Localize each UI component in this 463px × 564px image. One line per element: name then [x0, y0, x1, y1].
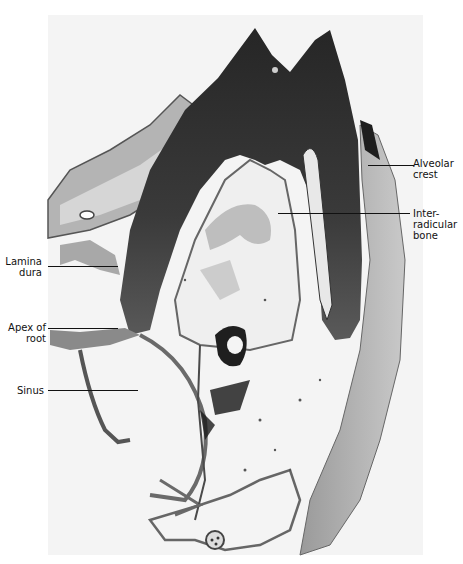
leader-line-alveolar-crest: [368, 165, 414, 166]
label-sinus: Sinus: [4, 385, 44, 396]
histology-figure: Alveolar crest Inter- radicular bone Lam…: [0, 0, 463, 564]
tooth-section-micrograph: [0, 0, 463, 564]
label-inter-radicular-bone: Inter- radicular bone: [413, 208, 457, 241]
leader-line-sinus: [48, 390, 138, 391]
label-alveolar-crest: Alveolar crest: [413, 158, 454, 180]
label-lamina-dura: Lamina dura: [4, 256, 42, 278]
leader-line-apex-of-root: [48, 328, 118, 329]
leader-line-lamina-dura: [48, 266, 118, 267]
leader-line-inter-radicular-bone: [278, 213, 410, 214]
label-apex-of-root: Apex of root: [2, 322, 46, 344]
